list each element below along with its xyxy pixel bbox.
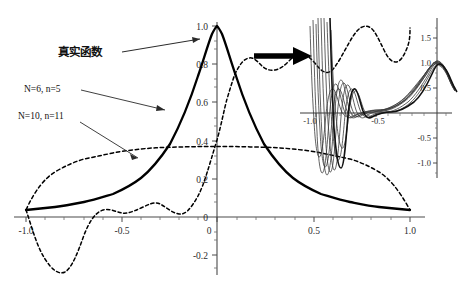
- main-ytick-label-6: 1.0: [196, 22, 208, 32]
- inset-y-axis: [433, 18, 437, 178]
- main-ytick-label-3: 0.4: [196, 137, 208, 147]
- annotation-true-function-label: 真实函数: [58, 45, 103, 59]
- inset-interpolant-2: [321, 18, 455, 172]
- annotation-n10-leader: [80, 122, 138, 160]
- main-ytick-label-2: 0.2: [196, 175, 208, 185]
- annotation-n6-label: N=6, n=5: [24, 84, 61, 94]
- inset-ytick-label-4: 1.5: [420, 33, 431, 43]
- annotation-layer: 真实函数 N=6, n=5 N=10, n=11: [18, 37, 200, 160]
- main-ytick-label-4: 0.6: [196, 98, 208, 108]
- main-x-axis: [14, 217, 425, 222]
- inset-xtick-label-1: -0.5: [371, 116, 384, 126]
- series-n6-curve: [26, 146, 410, 210]
- annotation-n6-leader: [81, 90, 165, 111]
- inset-ytick-label-0: -1.0: [418, 158, 431, 168]
- runge-phenomenon-figure: -1.0 -0.5 0 0.5 1.0: [0, 0, 458, 293]
- series-n10-curve: [26, 26, 410, 273]
- inset-interpolant-family: [310, 18, 457, 175]
- arrow-right-icon: [254, 47, 312, 65]
- main-xtick-label-3: 0.5: [308, 226, 320, 236]
- main-plot: -1.0 -0.5 0 0.5 1.0: [14, 22, 425, 275]
- main-ytick-label-1: 0: [203, 213, 208, 223]
- main-xtick-label-2: 0: [207, 226, 212, 236]
- inset-ytick-label-3: 1.0: [420, 58, 431, 68]
- inset-xtick-label-0: -1.0: [303, 116, 316, 126]
- annotation-n10-label: N=10, n=11: [18, 111, 64, 121]
- inset-ytick-label-1: -0.5: [418, 133, 431, 143]
- main-xtick-label-1: -0.5: [114, 226, 129, 236]
- main-y-axis: [212, 22, 217, 275]
- inset-interpolant-1: [318, 18, 455, 175]
- main-ytick-label-0: -0.2: [193, 251, 208, 261]
- main-xtick-label-4: 1.0: [404, 226, 416, 236]
- annotation-true-function-leader: [122, 37, 200, 52]
